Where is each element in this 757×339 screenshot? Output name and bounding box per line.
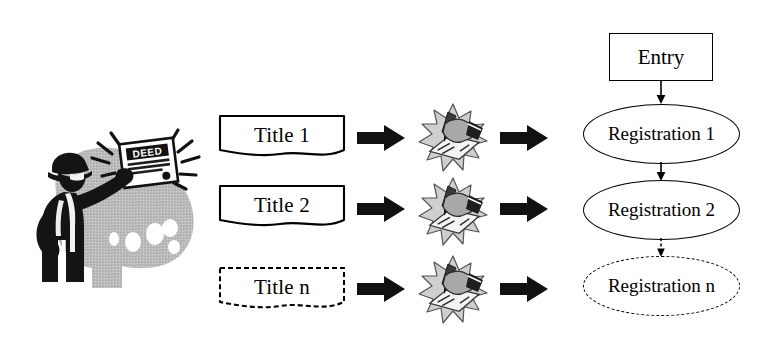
hand-signing-document-icon-n (417, 254, 489, 326)
block-arrow-right-sign2-to-registration2 (500, 196, 548, 222)
man-holding-deed-clipart: DEED (18, 100, 208, 300)
registration-oval-n[interactable]: Registration n (583, 256, 740, 316)
hand-signing-document-icon-1 (417, 102, 489, 174)
block-arrow-right-title2-to-sign2 (357, 196, 405, 222)
title-document-1-label: Title 1 (218, 114, 346, 156)
block-arrow-right-title1-to-sign1 (357, 125, 405, 151)
entry-box[interactable]: Entry (609, 33, 713, 81)
title-document-n-label: Title n (218, 266, 346, 308)
diagram-canvas: DEED (0, 0, 757, 339)
entry-box-label: Entry (638, 45, 685, 70)
title-document-1[interactable]: Title 1 (218, 114, 346, 162)
registration-oval-2-label: Registration 2 (608, 199, 715, 221)
hand-shape (443, 119, 483, 142)
registration-oval-1[interactable]: Registration 1 (583, 104, 740, 164)
block-arrow-right-sign1-to-registration1 (500, 125, 548, 151)
block-arrow-right-signn-to-registrationn (500, 276, 548, 302)
registration-oval-2[interactable]: Registration 2 (583, 180, 740, 240)
registration-oval-n-label: Registration n (608, 275, 715, 297)
registration-oval-1-label: Registration 1 (608, 123, 715, 145)
title-document-2-label: Title 2 (218, 184, 346, 226)
hand-signing-document-icon-2 (417, 176, 489, 248)
connector-registration2-to-registrationn (653, 238, 669, 258)
title-document-2[interactable]: Title 2 (218, 184, 346, 232)
connector-entry-to-registration1 (653, 81, 669, 105)
block-arrow-right-titlen-to-signn (357, 276, 405, 302)
connector-registration1-to-registration2 (653, 162, 669, 182)
title-document-n[interactable]: Title n (218, 266, 346, 314)
